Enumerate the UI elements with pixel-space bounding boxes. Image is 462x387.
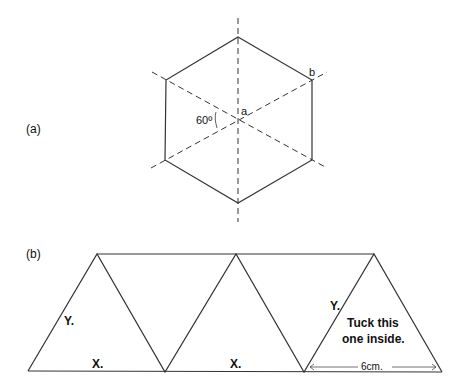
diagram-canvas: 60º a b (a) (b) Y. X. X. Y. Tuck this on… <box>0 0 462 387</box>
point-a-label: a <box>241 105 248 117</box>
figure-a-label: (a) <box>26 122 41 136</box>
hexagon-figure: 60º a b (a) <box>26 18 327 222</box>
tuck-text-line1: Tuck this <box>347 316 399 330</box>
tuck-text-line2: one inside. <box>342 332 405 346</box>
edge-y-label-2: Y. <box>330 299 340 313</box>
zigzag-edges <box>28 254 442 372</box>
angle-label: 60º <box>196 114 212 126</box>
angle-arc <box>215 112 217 128</box>
edge-x-label-1: X. <box>92 357 103 371</box>
diagonal-axis-2 <box>151 72 327 168</box>
point-b-label: b <box>309 66 315 78</box>
figure-b-label: (b) <box>26 247 41 261</box>
triangle-strip-figure: (b) Y. X. X. Y. Tuck this one inside. 6c… <box>26 247 442 372</box>
dimension-label: 6cm. <box>361 361 383 372</box>
edge-y-label-1: Y. <box>64 314 74 328</box>
edge-x-label-2: X. <box>230 357 241 371</box>
